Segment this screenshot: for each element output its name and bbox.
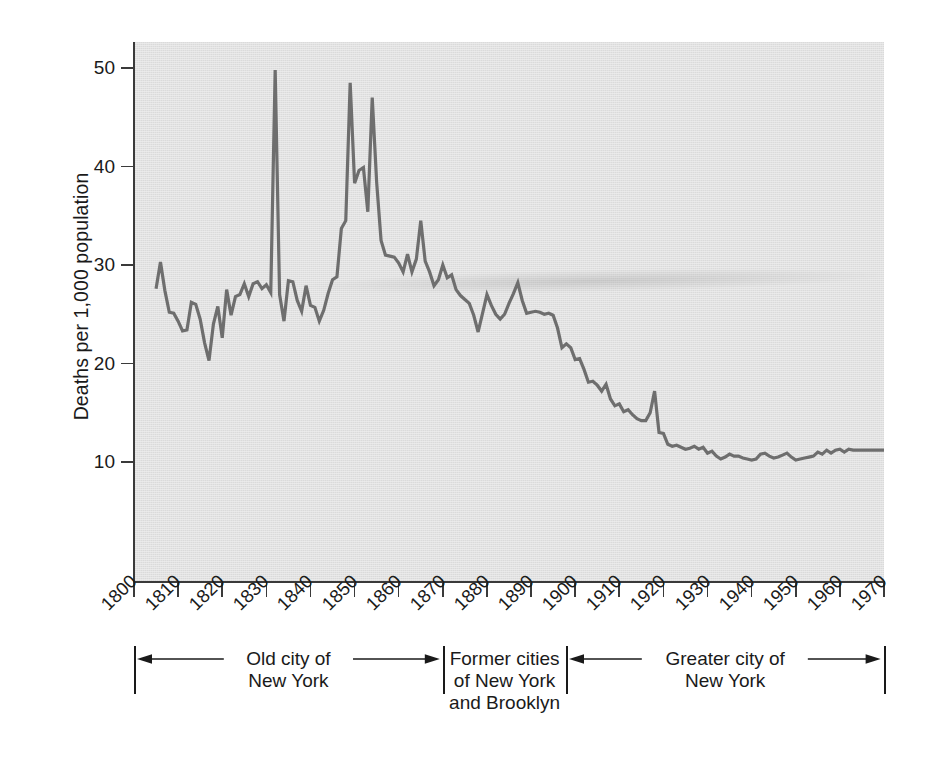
y-axis-title: Deaths per 1,000 population (70, 87, 93, 507)
mortality-chart-figure: Deaths per 1,000 population 1020304050 1… (0, 0, 929, 766)
y-tick-mark-50 (121, 67, 133, 69)
y-tick-label-10: 10 (69, 452, 115, 471)
y-axis-spine (133, 42, 135, 582)
y-tick-mark-30 (121, 264, 133, 266)
era-arrow-greater-city (566, 648, 884, 670)
death-rate-line-series (134, 42, 884, 582)
y-tick-mark-10 (121, 461, 133, 463)
plot-area (134, 42, 884, 582)
y-tick-mark-20 (121, 363, 133, 365)
y-tick-label-40: 40 (69, 157, 115, 176)
era-label-former-cities: Former citiesof New Yorkand Brooklyn (443, 648, 567, 714)
y-tick-label-30: 30 (69, 255, 115, 274)
era-divider-1970 (884, 646, 886, 694)
era-arrow-old-city (134, 648, 443, 670)
y-tick-label-50: 50 (69, 58, 115, 77)
y-tick-mark-40 (121, 166, 133, 168)
y-tick-label-20: 20 (69, 354, 115, 373)
